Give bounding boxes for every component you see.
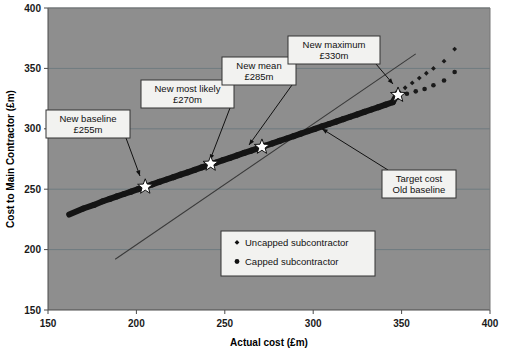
legend-label-1: Capped subcontractor	[245, 256, 338, 267]
scatter-chart: 150200250300350400 150200250300350400 Ne…	[0, 0, 505, 352]
callout-value-new-most-likely: £270m	[173, 94, 202, 105]
annotation-line-2: Old baseline	[393, 184, 446, 195]
legend-marker-circle	[235, 259, 240, 264]
callout-label-new-mean: New mean	[236, 60, 281, 71]
legend-label-0: Uncapped subcontractor	[245, 237, 349, 248]
x-tick-label: 400	[482, 318, 499, 329]
x-tick-label: 350	[393, 318, 410, 329]
x-tick-label: 200	[128, 318, 145, 329]
data-point	[452, 70, 457, 75]
callout-label-new-baseline: New baseline	[59, 113, 116, 124]
callout-value-new-mean: £285m	[244, 71, 273, 82]
x-tick-label: 250	[216, 318, 233, 329]
data-point	[442, 78, 447, 83]
y-tick-label: 350	[24, 63, 41, 74]
callout-label-new-most-likely: New most likely	[155, 83, 221, 94]
data-point	[431, 83, 436, 88]
callout-value-new-maximum: £330m	[319, 50, 348, 61]
y-tick-label: 400	[24, 3, 41, 14]
x-tick-label: 300	[305, 318, 322, 329]
chart-container: 150200250300350400 150200250300350400 Ne…	[0, 0, 505, 352]
callout-label-new-maximum: New maximum	[303, 39, 366, 50]
x-axis-title: Actual cost (£m)	[230, 337, 308, 348]
y-tick-label: 200	[24, 244, 41, 255]
chart-legend: Uncapped subcontractorCapped subcontract…	[221, 231, 375, 276]
y-tick-label: 150	[24, 305, 41, 316]
annotation-line-1: Target cost	[396, 173, 443, 184]
x-tick-label: 150	[40, 318, 57, 329]
data-point	[422, 87, 427, 92]
callout-value-new-baseline: £255m	[73, 124, 102, 135]
y-axis-title: Cost to Main Contractor (£m)	[5, 90, 16, 228]
y-tick-label: 250	[24, 184, 41, 195]
y-tick-label: 300	[24, 123, 41, 134]
data-point	[413, 89, 418, 94]
